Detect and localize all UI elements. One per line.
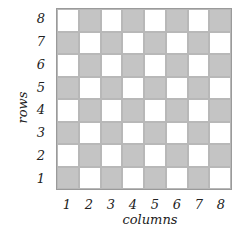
square-r8-c3 (101, 9, 123, 32)
square-r3-c8 (209, 122, 231, 145)
square-r5-c1 (57, 77, 79, 100)
square-r3-c2 (79, 122, 101, 145)
square-r5-c5 (144, 77, 166, 100)
square-r3-c3 (101, 122, 123, 145)
square-r4-c7 (188, 99, 210, 122)
square-r5-c8 (209, 77, 231, 100)
square-r2-c8 (209, 144, 231, 167)
square-r1-c6 (166, 167, 188, 190)
square-r6-c8 (209, 54, 231, 77)
row-label: 8 (34, 12, 48, 25)
square-r2-c6 (166, 144, 188, 167)
square-r7-c3 (101, 32, 123, 55)
square-r1-c8 (209, 167, 231, 190)
square-r3-c5 (144, 122, 166, 145)
square-r6-c4 (122, 54, 144, 77)
square-r7-c6 (166, 32, 188, 55)
square-r7-c7 (188, 32, 210, 55)
square-r8-c8 (209, 9, 231, 32)
column-label: 4 (122, 198, 144, 211)
column-label: 2 (78, 198, 100, 211)
square-r2-c3 (101, 144, 123, 167)
x-axis-title: columns (110, 212, 190, 227)
square-r4-c6 (166, 99, 188, 122)
square-r2-c2 (79, 144, 101, 167)
row-label: 1 (34, 172, 48, 185)
checkerboard-grid (56, 8, 232, 190)
square-r1-c3 (101, 167, 123, 190)
square-r2-c7 (188, 144, 210, 167)
column-label: 6 (166, 198, 188, 211)
row-label: 6 (34, 58, 48, 71)
column-label: 3 (100, 198, 122, 211)
square-r5-c6 (166, 77, 188, 100)
square-r1-c2 (79, 167, 101, 190)
square-r1-c5 (144, 167, 166, 190)
square-r5-c3 (101, 77, 123, 100)
square-r8-c2 (79, 9, 101, 32)
square-r4-c2 (79, 99, 101, 122)
square-r6-c3 (101, 54, 123, 77)
row-label: 4 (34, 103, 48, 116)
square-r2-c5 (144, 144, 166, 167)
square-r6-c5 (144, 54, 166, 77)
column-label: 7 (188, 198, 210, 211)
row-label: 3 (34, 126, 48, 139)
square-r8-c1 (57, 9, 79, 32)
square-r7-c2 (79, 32, 101, 55)
square-r3-c6 (166, 122, 188, 145)
square-r3-c4 (122, 122, 144, 145)
row-label: 7 (34, 35, 48, 48)
square-r6-c1 (57, 54, 79, 77)
square-r3-c1 (57, 122, 79, 145)
square-r7-c1 (57, 32, 79, 55)
square-r8-c4 (122, 9, 144, 32)
square-r6-c2 (79, 54, 101, 77)
square-r6-c6 (166, 54, 188, 77)
square-r1-c4 (122, 167, 144, 190)
column-label: 8 (210, 198, 232, 211)
square-r4-c5 (144, 99, 166, 122)
square-r4-c8 (209, 99, 231, 122)
square-r8-c7 (188, 9, 210, 32)
square-r4-c1 (57, 99, 79, 122)
square-r4-c4 (122, 99, 144, 122)
square-r7-c5 (144, 32, 166, 55)
square-r2-c1 (57, 144, 79, 167)
column-label: 5 (144, 198, 166, 211)
square-r5-c2 (79, 77, 101, 100)
column-label: 1 (56, 198, 78, 211)
square-r7-c8 (209, 32, 231, 55)
row-label: 5 (34, 81, 48, 94)
y-axis-title: rows (15, 88, 30, 128)
square-r7-c4 (122, 32, 144, 55)
square-r6-c7 (188, 54, 210, 77)
square-r1-c1 (57, 167, 79, 190)
square-r5-c7 (188, 77, 210, 100)
square-r4-c3 (101, 99, 123, 122)
square-r5-c4 (122, 77, 144, 100)
square-r8-c6 (166, 9, 188, 32)
square-r3-c7 (188, 122, 210, 145)
square-r8-c5 (144, 9, 166, 32)
square-r2-c4 (122, 144, 144, 167)
square-r1-c7 (188, 167, 210, 190)
row-label: 2 (34, 149, 48, 162)
